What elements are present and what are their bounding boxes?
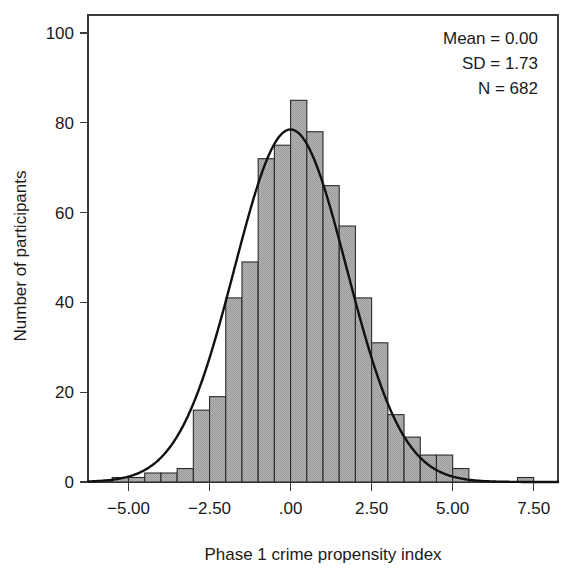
histogram-bar [388, 415, 404, 482]
x-tick-label-5: 7.50 [517, 499, 550, 518]
y-axis-title: Number of participants [11, 170, 30, 341]
histogram-bar [291, 100, 307, 482]
histogram-bar [210, 397, 226, 482]
annotation-mean: Mean = 0.00 [443, 29, 538, 48]
histogram-bar [274, 145, 290, 482]
histogram-bar [307, 132, 323, 482]
annotation-n: N = 682 [478, 79, 538, 98]
histogram-bar [145, 473, 161, 482]
x-tick-label-0: −5.00 [107, 499, 150, 518]
x-axis-ticks: −5.00−2.50.002.505.007.50 [107, 482, 550, 518]
annotation-n-value: = 682 [490, 79, 538, 98]
histogram-bar [161, 473, 177, 482]
histogram-bar [242, 262, 258, 482]
x-tick-label-2: .00 [279, 499, 303, 518]
y-axis-ticks: 020406080100 [46, 24, 88, 492]
histogram-bar [404, 437, 420, 482]
x-tick-label-1: −2.50 [188, 499, 231, 518]
histogram-bar [226, 298, 242, 482]
histogram-bar [258, 159, 274, 482]
histogram-bar [339, 226, 355, 482]
y-tick-label-2: 40 [55, 293, 74, 312]
histogram-bar [129, 478, 145, 482]
y-tick-label-5: 100 [46, 24, 74, 43]
y-tick-label-1: 20 [55, 383, 74, 402]
histogram-bars [112, 100, 533, 482]
x-tick-label-3: 2.50 [355, 499, 388, 518]
chart-canvas: 020406080100 −5.00−2.50.002.505.007.50 N… [0, 0, 572, 574]
y-tick-label-0: 0 [65, 473, 74, 492]
histogram-bar [355, 298, 371, 482]
histogram-figure: 020406080100 −5.00−2.50.002.505.007.50 N… [0, 0, 572, 574]
histogram-bar [177, 469, 193, 482]
annotation-sd: SD = 1.73 [462, 54, 538, 73]
annotation-n-symbol: N [478, 79, 490, 98]
y-tick-label-4: 80 [55, 114, 74, 133]
x-axis-title: Phase 1 crime propensity index [204, 545, 442, 564]
histogram-bar [193, 410, 209, 482]
histogram-bar [436, 455, 452, 482]
x-tick-label-4: 5.00 [436, 499, 469, 518]
y-tick-label-3: 60 [55, 204, 74, 223]
